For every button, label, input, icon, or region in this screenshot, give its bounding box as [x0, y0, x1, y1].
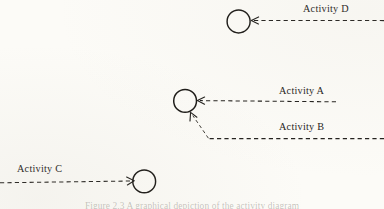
- activity-c-label: Activity C: [17, 164, 62, 174]
- edge-activity-b-line-diagonal: [193, 116, 209, 139]
- activity-a-label: Activity A: [279, 86, 324, 96]
- activity-diagram-canvas: [0, 0, 384, 209]
- edge-activity-d[interactable]: [251, 17, 384, 24]
- edge-activity-a[interactable]: [197, 97, 336, 104]
- activity-c-node[interactable]: [133, 170, 156, 193]
- activity-d-node[interactable]: [227, 10, 250, 33]
- figure-caption: Figure 2.3 A graphical depiction of the …: [0, 201, 384, 209]
- edge-activity-c[interactable]: [0, 177, 134, 185]
- activity-b-label: Activity B: [279, 122, 324, 132]
- activity-a-node[interactable]: [174, 90, 197, 113]
- edge-activity-c-line: [0, 181, 131, 183]
- edge-activity-a-line: [200, 101, 336, 102]
- activity-d-label: Activity D: [303, 4, 349, 14]
